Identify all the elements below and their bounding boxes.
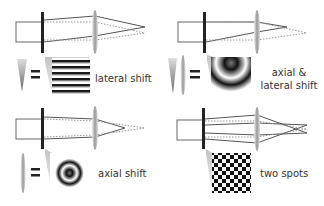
setup-diagram: [0, 103, 162, 206]
cylindrical-lens-icon: [21, 153, 26, 193]
equals-icon: [31, 168, 40, 171]
checkerboard-pattern: [212, 153, 251, 193]
panel-label: axial shift: [98, 167, 147, 180]
interference-pattern: [52, 57, 90, 96]
projection-fan: [45, 57, 52, 96]
phase-plate: [203, 12, 206, 53]
panel-axial-shift: axial shift: [0, 103, 162, 206]
lens-icon: [254, 107, 260, 151]
panel-two-spots: two spots: [162, 103, 324, 206]
phase-plate: [202, 108, 205, 149]
objective-body: [16, 22, 42, 42]
lens-icon: [92, 10, 98, 54]
panel-label: two spots: [260, 167, 308, 180]
equals-icon: [31, 70, 40, 73]
wedge-prism-icon: [17, 59, 27, 92]
setup-diagram: [162, 103, 324, 206]
lens-icon: [254, 10, 260, 54]
phase-plate: [41, 108, 44, 149]
phase-plate: [41, 12, 44, 53]
wedge-prism-icon: [168, 58, 177, 94]
panel-lateral-shift: lateral shift: [0, 0, 162, 103]
panel-label: lateral shift: [95, 72, 152, 85]
cylindrical-lens-icon: [181, 55, 186, 95]
panel-axial-lateral-shift: axial & lateral shift: [162, 0, 324, 103]
panel-label: axial & lateral shift: [254, 66, 324, 92]
lens-icon: [92, 106, 98, 150]
equals-icon: [190, 70, 200, 73]
setup-diagram: [0, 0, 162, 103]
